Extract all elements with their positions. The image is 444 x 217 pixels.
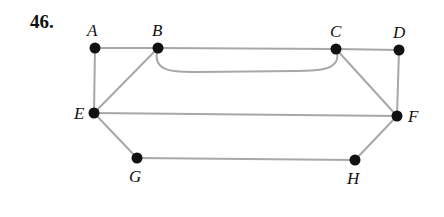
edge-B-E xyxy=(94,48,158,113)
vertex-label-H: H xyxy=(346,169,361,188)
vertex-label-A: A xyxy=(86,21,98,40)
vertex-label-F: F xyxy=(407,107,419,126)
vertex-label-C: C xyxy=(330,22,342,41)
vertex-C xyxy=(331,44,342,55)
edge-A-E xyxy=(94,48,95,113)
vertex-B xyxy=(153,43,164,54)
vertex-label-B: B xyxy=(152,21,163,40)
edge-B-C xyxy=(158,48,336,49)
edge-D-F xyxy=(397,50,399,116)
vertex-label-G: G xyxy=(129,167,141,186)
vertex-label-D: D xyxy=(392,23,406,42)
edge-G-H xyxy=(137,158,355,160)
edge-E-F xyxy=(94,113,397,116)
edge-C-D xyxy=(336,49,399,50)
vertex-H xyxy=(350,155,361,166)
edge-C-F xyxy=(336,49,397,116)
curved-edge-B-C xyxy=(157,48,338,72)
vertex-D xyxy=(394,45,405,56)
edge-E-G xyxy=(94,113,137,158)
vertex-label-E: E xyxy=(73,104,85,123)
vertex-E xyxy=(89,108,100,119)
vertex-G xyxy=(132,153,143,164)
vertex-F xyxy=(392,111,403,122)
vertex-A xyxy=(90,43,101,54)
graph-diagram: ABCDEFGH xyxy=(0,0,444,217)
edge-H-F xyxy=(355,116,397,160)
